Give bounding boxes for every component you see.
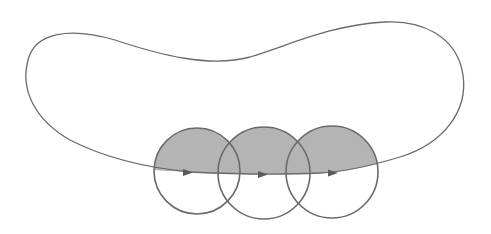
diagram-canvas: [0, 0, 491, 234]
loop-diagram: [0, 0, 491, 234]
